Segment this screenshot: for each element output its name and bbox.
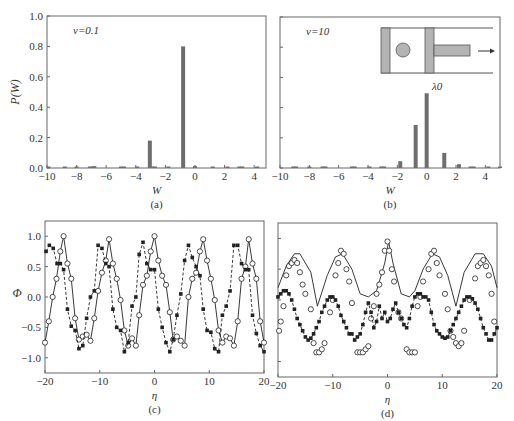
star-marker [66, 307, 70, 311]
x-tick-label: −6 [333, 170, 345, 182]
circle-marker [65, 261, 70, 266]
star-marker [244, 268, 248, 272]
y-tick-label: 0.0 [29, 162, 43, 174]
bar [92, 166, 96, 168]
circle-marker [220, 340, 225, 345]
star-marker [419, 292, 423, 296]
star-marker [104, 262, 108, 266]
star-marker [190, 256, 194, 260]
star-marker [432, 323, 436, 327]
circle-marker [246, 237, 251, 242]
star-marker [325, 298, 329, 302]
star-marker [205, 329, 209, 333]
circle-marker [152, 234, 157, 239]
star-marker [251, 313, 255, 317]
circle-marker [110, 261, 115, 266]
star-marker [81, 344, 85, 348]
inset-piston-rod [434, 45, 470, 56]
star-marker [358, 332, 362, 336]
bar [148, 141, 152, 168]
circle-marker [276, 328, 281, 333]
bar [75, 167, 79, 169]
x-tick-label: 0 [192, 170, 198, 182]
circle-marker [492, 319, 497, 324]
panel-caption: (a) [150, 198, 163, 211]
star-marker [460, 304, 464, 308]
star-marker [386, 320, 390, 324]
star-marker [320, 311, 324, 315]
y-tick-label: 1.0 [27, 230, 41, 242]
circle-marker [481, 257, 486, 262]
star-marker [408, 317, 412, 321]
x-tick-label: 2 [453, 170, 459, 182]
star-marker [309, 336, 313, 340]
star-marker [217, 350, 221, 354]
star-marker [287, 292, 291, 296]
circle-marker [473, 276, 478, 281]
circle-marker [437, 273, 442, 278]
x-tick-label: −20 [36, 375, 54, 387]
bar [193, 166, 197, 168]
star-marker [55, 262, 59, 266]
circle-marker [451, 334, 456, 339]
y-axis-label: P(W) [8, 79, 22, 105]
star-marker [334, 298, 338, 302]
bar [442, 153, 446, 168]
circle-marker [349, 300, 354, 305]
star-marker [221, 313, 225, 317]
star-marker [279, 292, 283, 296]
y-tick-label: 0.6 [29, 71, 43, 83]
circle-marker [333, 273, 338, 278]
star-marker [183, 259, 187, 263]
inset-lambda-label: λ0 [431, 80, 443, 92]
star-marker [462, 298, 466, 302]
star-marker [476, 307, 480, 311]
star-marker [342, 320, 346, 324]
bar [323, 167, 327, 169]
bar [367, 166, 371, 168]
star-marker [123, 350, 127, 354]
circle-marker [295, 260, 300, 265]
star-marker [451, 323, 455, 327]
star-marker [482, 326, 486, 330]
circle-marker [190, 276, 195, 281]
bar [63, 167, 67, 169]
circle-marker [341, 251, 346, 256]
bar [353, 167, 357, 169]
star-marker [317, 320, 321, 324]
star-marker [364, 311, 368, 315]
star-marker [171, 338, 175, 342]
star-marker [119, 329, 123, 333]
bar [457, 164, 461, 168]
x-tick-label: 0 [424, 170, 430, 182]
star-marker [391, 307, 395, 311]
star-marker [290, 298, 294, 302]
star-marker [301, 329, 305, 333]
star-marker [430, 311, 434, 315]
star-marker [457, 311, 461, 315]
star-marker [228, 289, 232, 293]
star-marker [394, 301, 398, 305]
star-marker [405, 326, 409, 330]
panel-caption: (d) [381, 407, 394, 420]
star-marker [48, 244, 52, 248]
star-marker [198, 274, 202, 278]
star-marker [258, 344, 262, 348]
star-marker [168, 350, 172, 354]
circle-marker [322, 341, 327, 346]
x-tick-label: −8 [303, 170, 315, 182]
panel-caption: (b) [384, 198, 397, 211]
star-marker [284, 289, 288, 293]
star-marker [232, 244, 236, 248]
panel-caption: (c) [148, 403, 161, 416]
circle-marker [489, 291, 494, 296]
x-tick-label: −6 [100, 170, 112, 182]
star-marker [179, 292, 183, 296]
star-marker [375, 320, 379, 324]
star-marker [137, 253, 141, 257]
star-marker [96, 244, 100, 248]
star-marker [157, 307, 161, 311]
circle-marker [434, 260, 439, 265]
star-marker [187, 244, 191, 248]
star-marker [111, 307, 115, 311]
